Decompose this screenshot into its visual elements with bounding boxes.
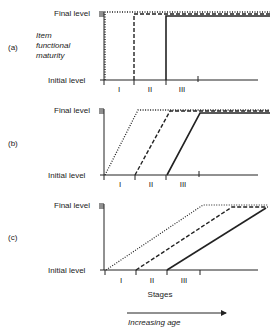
panel-a-label: (a): [8, 43, 18, 52]
y-label-line-3: maturity: [36, 51, 65, 60]
panel-b: (b) Final level Initial level I II III: [8, 106, 270, 189]
svg-text:Final level: Final level: [54, 106, 90, 115]
y-label-line-2: functional: [36, 41, 70, 50]
y-label-line-1: Item: [36, 31, 52, 40]
initial-level-label: Initial level: [48, 76, 86, 85]
svg-text:III: III: [179, 85, 186, 94]
panel-c-label: (c): [8, 233, 18, 242]
svg-text:II: II: [150, 276, 154, 285]
svg-text:II: II: [148, 85, 152, 94]
final-level-label: Final level: [54, 9, 90, 18]
maturity-diagram: (a) Item functional maturity Final level…: [0, 0, 273, 334]
svg-text:III: III: [180, 180, 187, 189]
age-arrow-label: Increasing age: [128, 318, 181, 327]
svg-text:I: I: [119, 180, 121, 189]
x-axis-label: Stages: [148, 290, 173, 299]
svg-text:I: I: [118, 85, 120, 94]
panel-b-label: (b): [8, 139, 18, 148]
svg-text:I: I: [120, 276, 122, 285]
svg-text:Initial level: Initial level: [48, 171, 86, 180]
svg-text:Initial level: Initial level: [48, 266, 86, 275]
panel-c: (c) Final level Initial level I II III S…: [8, 201, 268, 327]
panel-a: (a) Item functional maturity Final level…: [8, 9, 270, 94]
svg-text:Final level: Final level: [54, 201, 90, 210]
svg-text:II: II: [149, 180, 153, 189]
svg-text:III: III: [181, 276, 188, 285]
